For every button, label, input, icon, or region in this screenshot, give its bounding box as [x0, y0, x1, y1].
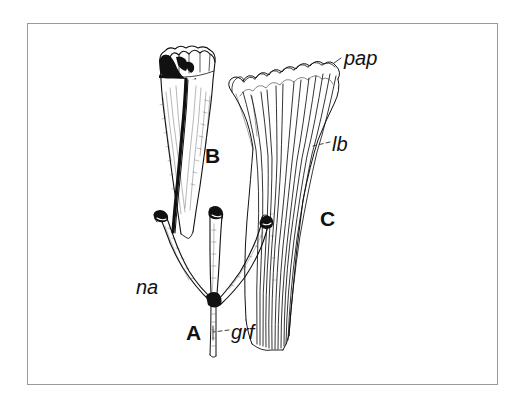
panel-label-c: C	[320, 208, 335, 229]
line-drawing-illustration	[0, 0, 523, 399]
part-label-pap: pap	[344, 48, 377, 68]
panel-label-b: B	[205, 145, 220, 166]
panel-c-drawing	[229, 61, 340, 350]
grf-leader-line	[213, 330, 229, 332]
part-label-grf: grf	[231, 322, 254, 342]
part-label-lb: lb	[332, 134, 348, 154]
label-leader-lines	[213, 58, 341, 340]
part-label-na: na	[136, 277, 158, 297]
figure-container: A B C na grf lb pap	[0, 0, 523, 399]
pap-leader-line	[334, 58, 341, 63]
panel-b-drawing	[158, 46, 215, 238]
panel-label-a: A	[186, 322, 201, 343]
